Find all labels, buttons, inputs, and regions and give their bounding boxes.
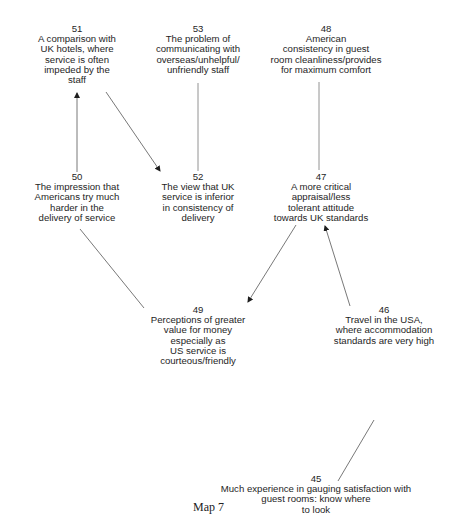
node-text: American consistency in guest room clean… bbox=[256, 34, 396, 75]
node-text: The impression that Americans try much h… bbox=[22, 182, 132, 223]
link-50-49 bbox=[80, 229, 144, 308]
node-49: 49 Perceptions of greater value for mone… bbox=[136, 305, 260, 366]
node-text: Much experience in gauging satisfaction … bbox=[196, 484, 436, 515]
link-45-46 bbox=[338, 420, 374, 481]
node-52: 52 The view that UK service is inferior … bbox=[148, 172, 248, 223]
node-45: 45 Much experience in gauging satisfacti… bbox=[196, 474, 436, 515]
node-51: 51 A comparison with UK hotels, where se… bbox=[20, 24, 134, 85]
node-text: A more critical appraisal/less tolerant … bbox=[256, 182, 386, 223]
node-text: The view that UK service is inferior in … bbox=[148, 182, 248, 223]
node-50: 50 The impression that Americans try muc… bbox=[22, 172, 132, 223]
node-46: 46 Travel in the USA, where accommodatio… bbox=[316, 305, 452, 346]
node-text: The problem of communicating with overse… bbox=[140, 34, 256, 75]
node-text: Perceptions of greater value for money e… bbox=[136, 315, 260, 366]
node-text: Travel in the USA, where accommodation s… bbox=[316, 315, 452, 346]
node-48: 48 American consistency in guest room cl… bbox=[256, 24, 396, 75]
node-text: A comparison with UK hotels, where servi… bbox=[20, 34, 134, 85]
link-47-49 bbox=[248, 225, 296, 302]
link-46-47 bbox=[325, 226, 350, 306]
map-caption: Map 7 bbox=[193, 500, 224, 515]
link-51-52 bbox=[106, 92, 160, 171]
node-47: 47 A more critical appraisal/less tolera… bbox=[256, 172, 386, 223]
node-53: 53 The problem of communicating with ove… bbox=[140, 24, 256, 75]
